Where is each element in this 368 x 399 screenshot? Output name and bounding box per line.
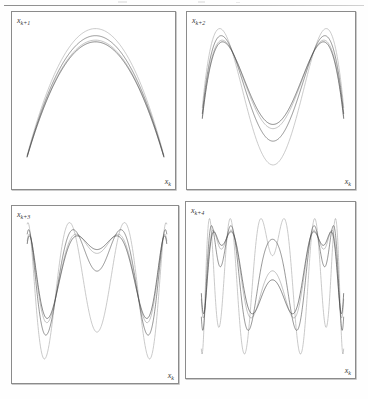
curve-r-3-93 — [201, 219, 343, 354]
curve-r-3-74 — [201, 226, 343, 331]
panel-xk2-plot — [187, 12, 356, 190]
curve-r-3-62 — [202, 40, 343, 128]
curve-r-3-74 — [27, 36, 164, 156]
scan-artifact — [236, 2, 240, 3]
scan-artifact — [198, 1, 205, 3]
panel-xk4-plot — [186, 202, 356, 379]
curve-r-3-62 — [27, 234, 167, 322]
curve-r-3-575 — [27, 42, 164, 157]
panel-xk1-ylabel: xk+1 — [17, 16, 30, 26]
header-rule — [4, 5, 364, 6]
panel-xk2: xk+2 xk — [186, 11, 356, 190]
panel-xk4: xk+4 xk — [185, 201, 356, 379]
figure-page: xk+1 xk xk+2 xk xk+3 xk xk+4 xk — [0, 0, 368, 399]
curve-r-3-575 — [27, 236, 167, 319]
curve-r-3-93 — [27, 223, 167, 359]
curve-r-3-93 — [27, 29, 164, 156]
panel-xk2-ylabel: xk+2 — [192, 16, 205, 26]
panel-xk1-xlabel: xk — [165, 177, 171, 187]
panel-xk4-ylabel: xk+4 — [191, 206, 204, 216]
panel-xk1-plot — [12, 12, 176, 190]
curve-r-3-575 — [202, 42, 343, 125]
panel-xk3-plot — [12, 206, 179, 384]
panel-xk2-xlabel: xk — [345, 177, 351, 187]
panel-xk3: xk+3 xk — [11, 205, 179, 384]
panel-xk3-ylabel: xk+3 — [17, 210, 30, 220]
scan-artifact — [118, 1, 127, 3]
curve-r-3-74 — [27, 230, 167, 335]
curve-r-3-575 — [201, 232, 343, 314]
panel-xk4-xlabel: xk — [345, 366, 351, 376]
panel-xk3-xlabel: xk — [168, 371, 174, 381]
curve-r-3-93 — [202, 29, 343, 165]
curve-r-3-62 — [201, 230, 343, 318]
panel-xk1: xk+1 xk — [11, 11, 176, 190]
curve-r-3-74 — [202, 36, 343, 141]
